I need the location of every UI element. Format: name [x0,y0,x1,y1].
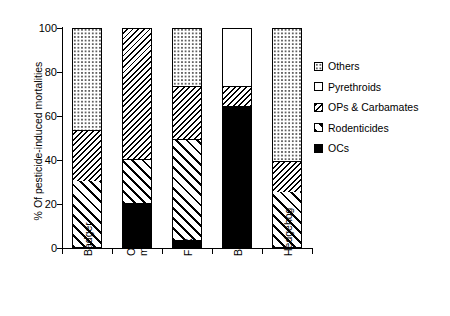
y-axis-tick-label: 80 [45,66,57,78]
x-axis-label-other-mustelids: Other mustelids [126,212,149,256]
legend-swatch-icon [314,123,323,132]
legend-item-ocs[interactable]: OCs [314,138,418,159]
legend-item-others[interactable]: Others [314,56,418,77]
bar-segment-ops-carbamates [73,130,101,181]
y-axis-tick-label: 60 [45,110,57,122]
y-axis-tick-mark [57,160,62,161]
x-axis-tick-mark [62,248,63,254]
plot-area [62,28,312,248]
legend-swatch-icon [314,62,323,71]
legend-label: Rodenticides [328,122,389,134]
bar-segment-ops-carbamates [123,28,151,159]
y-axis-tick-mark [57,204,62,205]
bar-segment-ops-carbamates [173,86,201,139]
legend-swatch-icon [314,82,323,91]
x-axis-tick-mark [212,248,213,254]
bar-segment-ocs [223,106,251,247]
bar-segment-others [273,28,301,161]
bar-badger[interactable] [72,28,102,248]
bar-fox[interactable] [172,28,202,248]
y-axis-tick-label: 100 [39,22,57,34]
bar-segment-ops-carbamates [223,86,251,106]
y-axis-tick-mark [57,116,62,117]
legend-item-rodenticides[interactable]: Rodenticides [314,118,418,139]
legend-item-ops-carbamates[interactable]: OPs & Carbamates [314,97,418,118]
legend-item-pyrethroids[interactable]: Pyrethroids [314,77,418,98]
legend-swatch-icon [314,103,323,112]
y-axis-tick-label: 40 [45,154,57,166]
x-axis-label-hedgehog: Hedgehog [283,208,295,256]
x-axis-tick-mark [262,248,263,254]
bar-segment-others [173,28,201,86]
y-axis-tick-label: 0 [51,242,57,254]
y-axis-tick-mark [57,28,62,29]
bar-segment-pyrethroids [223,28,251,86]
x-axis-label-badger: Badger [83,222,95,256]
chart-legend: OthersPyrethroidsOPs & CarbamatesRodenti… [314,56,418,159]
x-axis-label-bats: Bats [233,235,245,256]
y-axis-tick-mark [57,72,62,73]
legend-label: OCs [328,142,349,154]
bar-segment-others [73,28,101,130]
legend-label: Pyrethroids [328,81,381,93]
bar-segment-ops-carbamates [273,161,301,192]
stacked-bar-chart: % Of pesticide-induced mortalities 02040… [0,0,450,316]
x-axis-label-fox: Fox [183,238,195,256]
legend-label: Others [328,60,360,72]
x-axis-tick-mark [312,248,313,254]
x-axis-tick-mark [112,248,113,254]
legend-swatch-icon [314,144,323,153]
y-axis-title: % Of pesticide-induced mortalities [32,26,44,256]
bar-bats[interactable] [222,28,252,248]
bar-segment-rodenticides [123,159,151,203]
bar-segment-rodenticides [173,139,201,240]
y-axis-tick-label: 20 [45,198,57,210]
legend-label: OPs & Carbamates [328,101,418,113]
x-axis-tick-mark [162,248,163,254]
